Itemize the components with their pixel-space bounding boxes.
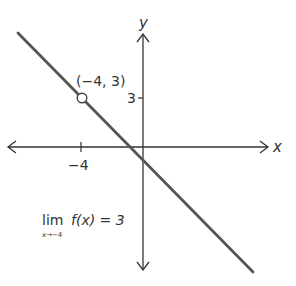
y-axis: [137, 34, 149, 270]
open-point-marker: [77, 93, 87, 103]
limit-graph: x y −4 3 (−4, 3) lim x→−4 f(x) = 3: [0, 0, 296, 286]
lim-subscript: x→−4: [42, 231, 63, 239]
y-axis-label: y: [138, 14, 149, 32]
point-label: (−4, 3): [76, 73, 125, 89]
x-tick-label: −4: [68, 157, 89, 173]
lim-expression: f(x) = 3: [71, 212, 125, 228]
limit-expression: lim x→−4 f(x) = 3: [42, 212, 125, 239]
x-axis-label: x: [272, 138, 282, 156]
lim-text: lim: [42, 212, 63, 228]
y-tick-label: 3: [127, 90, 136, 106]
x-axis: [8, 141, 268, 153]
